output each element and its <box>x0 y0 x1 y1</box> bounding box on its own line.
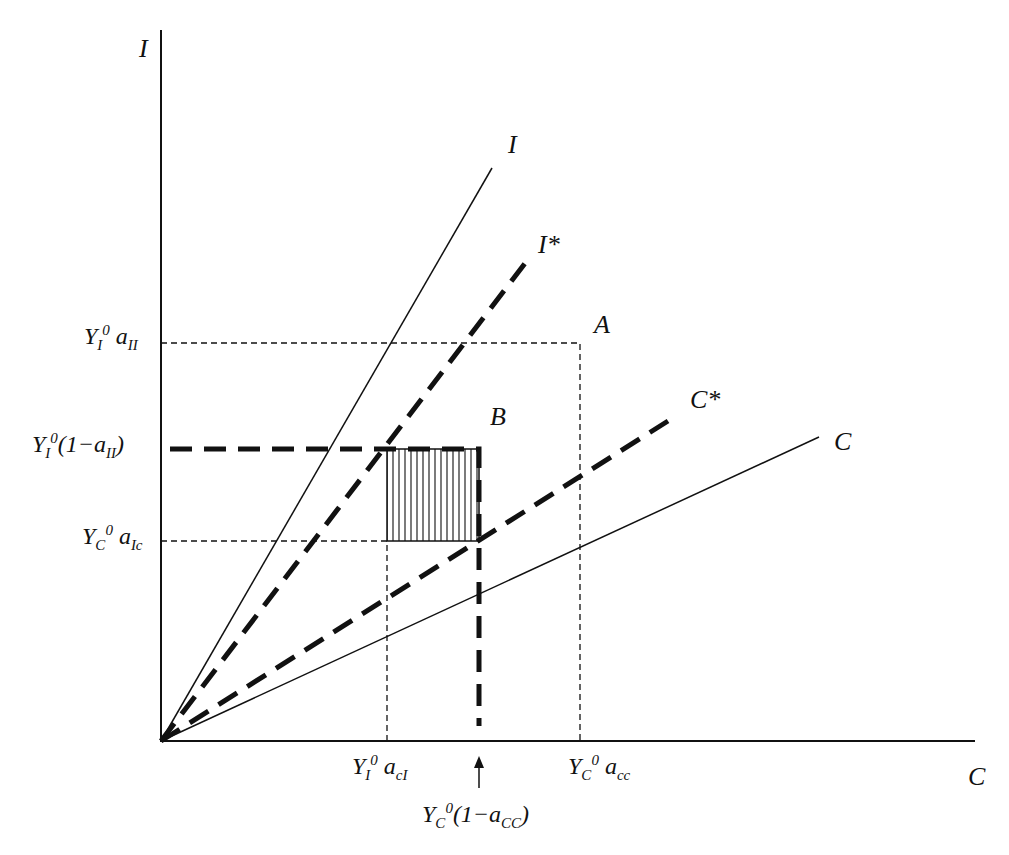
line-I-star-label: I* <box>538 230 560 260</box>
line-I-label: I <box>508 130 517 160</box>
dotted-guide-lower <box>161 541 387 741</box>
y-tick-label-1: YI0 aII <box>84 322 138 354</box>
y-tick-label-2: YI0(1−aII) <box>32 430 124 462</box>
arrow-head <box>474 756 484 768</box>
line-C <box>161 437 819 741</box>
line-C-label: C <box>834 427 851 457</box>
dotted-guide-A <box>161 343 580 741</box>
shaded-region <box>387 449 479 541</box>
line-C-star-label: C* <box>690 385 720 415</box>
diagram: I C I I* C* C A B YI0 aII YI0(1−aII) YC0… <box>0 0 1009 855</box>
point-B-label: B <box>490 402 506 432</box>
point-A-label: A <box>594 310 610 340</box>
x-axis-label: C <box>968 762 985 792</box>
y-tick-label-3: YC0 aIc <box>82 522 143 554</box>
x-tick-label-2: YC0 acc <box>568 752 630 784</box>
x-tick-label-3: YC0(1−aCC) <box>422 800 529 832</box>
y-axis-label: I <box>139 34 148 64</box>
x-tick-label-1: YI0 acI <box>352 752 408 784</box>
